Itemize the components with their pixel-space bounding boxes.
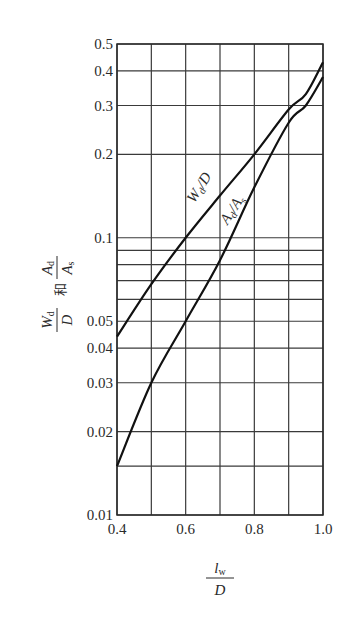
svg-text:Ad: Ad [39, 261, 56, 276]
svg-text:Wd: Wd [39, 311, 56, 329]
y-tick-label: 0.2 [94, 146, 113, 162]
y-tick-label: 0.02 [87, 424, 113, 440]
svg-text:lw: lw [214, 560, 226, 577]
svg-text:D: D [59, 314, 75, 326]
y-tick-label: 0.5 [94, 36, 113, 52]
x-axis-tick-labels: 0.40.60.81.0 [108, 521, 333, 537]
y-axis-tick-labels: 0.50.40.30.20.10.050.040.030.020.01 [87, 36, 114, 523]
y-tick-label: 0.3 [94, 98, 113, 114]
svg-text:和: 和 [53, 283, 68, 296]
y-tick-label: 0.1 [94, 230, 113, 246]
x-tick-label: 0.4 [108, 521, 127, 537]
x-axis-title: lw D [206, 560, 234, 598]
y-tick-label: 0.03 [87, 375, 113, 391]
y-axis-title: Wd D 和 Ad As [39, 256, 76, 332]
y-tick-label: 0.4 [94, 63, 113, 79]
x-tick-label: 0.8 [245, 521, 264, 537]
y-tick-label: 0.05 [87, 313, 113, 329]
y-tick-label: 0.04 [87, 340, 114, 356]
x-tick-label: 0.6 [176, 521, 195, 537]
series-label-wd-d: Wd/D [183, 169, 216, 206]
svg-text:D: D [214, 582, 226, 598]
svg-text:As: As [59, 261, 76, 275]
chart-canvas: 0.50.40.30.20.10.050.040.030.020.01 0.40… [0, 0, 360, 624]
x-tick-label: 1.0 [314, 521, 333, 537]
vertical-gridlines [117, 44, 323, 515]
